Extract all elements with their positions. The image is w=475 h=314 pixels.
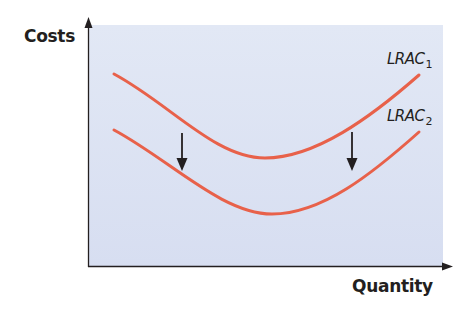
lrac2-label-subscript: 2 — [426, 115, 433, 128]
y-axis-label: Costs — [24, 26, 75, 46]
lrac1-label-subscript: 1 — [426, 58, 433, 71]
lrac-diagram — [0, 0, 475, 314]
lrac2-label-main: LRAC — [387, 107, 425, 125]
lrac2-label: LRAC2 — [387, 107, 432, 128]
lrac1-label: LRAC1 — [387, 50, 432, 71]
lrac1-label-main: LRAC — [387, 50, 425, 68]
y-axis-arrowhead-icon — [85, 17, 93, 28]
x-axis-arrowhead-icon — [442, 263, 453, 271]
x-axis-label: Quantity — [352, 276, 433, 296]
